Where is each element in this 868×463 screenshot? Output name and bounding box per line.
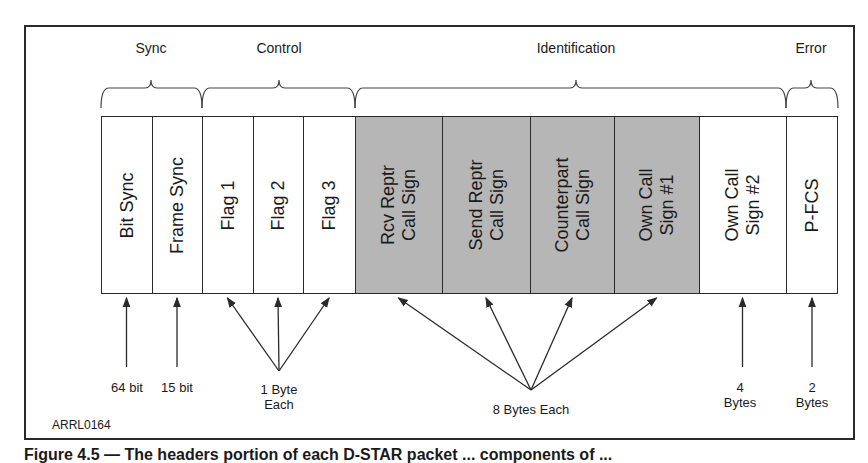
size-label: 4 Bytes <box>724 380 757 410</box>
field-label: Own Call Sign #2 <box>722 168 764 241</box>
size-label: 2 Bytes <box>796 380 829 410</box>
size-label: 15 bit <box>161 380 193 395</box>
field-cell: Flag 3 <box>303 116 355 294</box>
field-label: Flag 2 <box>268 180 289 230</box>
brace-sync <box>101 80 202 108</box>
field-label: Flag 1 <box>218 180 239 230</box>
field-cell: Bit Sync <box>101 116 152 294</box>
field-label: Send Reptr Call Sign <box>466 159 508 250</box>
figure-caption: Figure 4.5 — The headers portion of each… <box>24 446 612 463</box>
field-label: Flag 3 <box>319 180 340 230</box>
field-cell: Frame Sync <box>152 116 202 294</box>
field-label: Own Call Sign #1 <box>636 168 678 241</box>
field-cell: Send Reptr Call Sign <box>442 116 530 294</box>
pointer-arrow <box>228 298 280 371</box>
pointer-arrow <box>279 298 329 371</box>
pointer-arrow <box>399 298 532 390</box>
field-cell: Own Call Sign #2 <box>699 116 786 294</box>
pointer-arrow <box>278 298 279 371</box>
pointer-arrow <box>531 298 657 390</box>
brace-error <box>786 80 838 108</box>
field-cell: Flag 2 <box>253 116 303 294</box>
field-label: Frame Sync <box>167 156 188 253</box>
field-cell: Counterpart Call Sign <box>530 116 614 294</box>
field-label: P-FCS <box>802 178 823 232</box>
figure-id: ARRL0164 <box>52 418 111 432</box>
field-label: Counterpart Call Sign <box>552 157 594 252</box>
field-label: Bit Sync <box>117 172 138 238</box>
field-cell: Own Call Sign #1 <box>614 116 699 294</box>
field-cell: P-FCS <box>786 116 838 294</box>
field-label: Rcv Reptr Call Sign <box>378 165 420 245</box>
brace-identification <box>355 80 786 108</box>
pointer-arrow <box>531 298 572 390</box>
size-label: 1 Byte Each <box>261 382 298 412</box>
size-label: 64 bit <box>111 380 143 395</box>
size-label: 8 Bytes Each <box>493 402 570 417</box>
field-cell: Flag 1 <box>202 116 253 294</box>
field-cell: Rcv Reptr Call Sign <box>355 116 442 294</box>
pointer-arrow <box>486 298 531 390</box>
brace-control <box>202 80 355 108</box>
